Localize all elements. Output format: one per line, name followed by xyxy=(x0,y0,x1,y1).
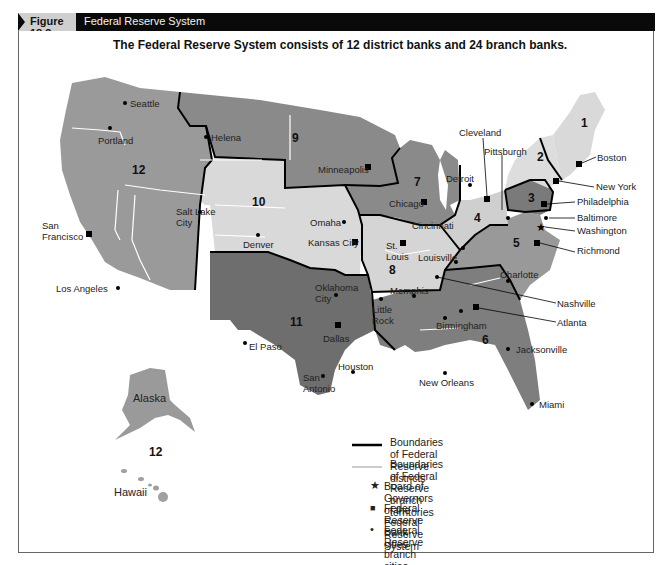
city-pittsburgh: Pittsburgh xyxy=(484,146,527,157)
city-dallas: Dallas xyxy=(323,333,349,344)
city-chicago: Chicago xyxy=(389,198,424,209)
city-charlotte: Charlotte xyxy=(500,269,539,280)
district-2-label: 2 xyxy=(537,150,544,164)
city-memphis: Memphis xyxy=(390,285,429,296)
city-seattle: Seattle xyxy=(130,98,160,109)
district-8-label: 8 xyxy=(389,263,396,277)
city-denver: Denver xyxy=(243,239,274,250)
district-9-label: 9 xyxy=(292,131,299,145)
city-baltimore: Baltimore xyxy=(577,212,617,223)
city-louisville: Louisville xyxy=(418,252,457,263)
square-icon: ■ xyxy=(370,503,375,513)
city-san-francisco: San Francisco xyxy=(42,220,87,242)
dot-icon: • xyxy=(370,523,374,535)
city-richmond: Richmond xyxy=(577,245,620,256)
city-omaha: Omaha xyxy=(310,217,341,228)
district-12-label: 12 xyxy=(132,163,145,177)
city-philadelphia: Philadelphia xyxy=(577,196,629,207)
city-st-louis: St. Louis xyxy=(386,240,411,262)
region-alaska: Alaska xyxy=(133,393,166,404)
city-houston: Houston xyxy=(338,361,373,372)
city-nashville: Nashville xyxy=(557,298,596,309)
city-helena: Helena xyxy=(211,132,241,143)
city-birmingham: Birmingham xyxy=(436,320,487,331)
city-kansas-city: Kansas City xyxy=(308,237,359,248)
district-12-hawaii-label: 12 xyxy=(149,445,162,459)
district-7-label: 7 xyxy=(414,175,421,189)
city-cincinnati: Cincinnati xyxy=(412,220,454,231)
city-cleveland: Cleveland xyxy=(459,127,501,138)
city-el-paso: El Paso xyxy=(249,341,282,352)
city-oklahoma-city: Oklahoma City xyxy=(315,282,353,304)
alaska-shape xyxy=(115,368,195,440)
district-1-label: 1 xyxy=(581,116,588,130)
district-4-label: 4 xyxy=(474,211,481,225)
city-jacksonville: Jacksonville xyxy=(516,344,567,355)
city-little-rock: Little Rock xyxy=(372,304,402,326)
city-miami: Miami xyxy=(539,399,564,410)
star-icon: ★ xyxy=(370,479,380,492)
city-detroit: Detroit xyxy=(446,173,474,184)
city-san-antonio: San Antonio xyxy=(303,372,333,394)
city-los-angeles: Los Angeles xyxy=(56,283,108,294)
district-3-label: 3 xyxy=(528,191,535,205)
city-washington: Washington xyxy=(577,225,627,236)
city-portland: Portland xyxy=(98,135,133,146)
district-10-label: 10 xyxy=(252,195,265,209)
city-salt-lake-city: Salt Lake City xyxy=(176,206,216,228)
city-new-orleans: New Orleans xyxy=(419,377,474,388)
district-6-label: 6 xyxy=(482,333,489,347)
board-of-governors-star: ★ xyxy=(536,221,546,233)
city-new-york: New York xyxy=(596,181,636,192)
district-11-label: 11 xyxy=(290,315,303,329)
city-minneapolis: Minneapolis xyxy=(318,164,369,175)
city-boston: Boston xyxy=(597,152,627,163)
district-5-label: 5 xyxy=(513,236,520,250)
region-hawaii: Hawaii xyxy=(114,487,147,498)
city-atlanta: Atlanta xyxy=(557,317,587,328)
